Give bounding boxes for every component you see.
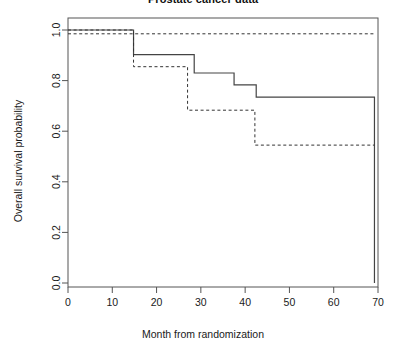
series-solid-curve (68, 30, 374, 283)
x-axis-tick-label: 0 (65, 296, 71, 308)
y-axis: 0.00.20.40.60.81.0 (50, 23, 68, 291)
y-axis-tick-label: 0.8 (50, 73, 62, 88)
x-axis-title: Month from randomization (0, 328, 406, 340)
series-lower-dashed-curve (68, 30, 374, 145)
x-axis: 010203040506070 (65, 287, 384, 308)
survival-plot-figure: Prostate cancer data 010203040506070 0.0… (0, 0, 406, 353)
y-axis-tick-label: 0.6 (50, 124, 62, 139)
y-axis-tick-label: 0.2 (50, 225, 62, 240)
x-axis-tick-label: 20 (151, 296, 163, 308)
y-axis-tick-label: 0.4 (50, 174, 62, 189)
x-axis-tick-label: 10 (106, 296, 118, 308)
y-axis-tick-label: 1.0 (50, 23, 62, 38)
page-title: Prostate cancer data (0, 0, 406, 5)
x-axis-tick-label: 40 (239, 296, 251, 308)
series-layer (68, 30, 376, 283)
y-axis-tick-label: 0.0 (50, 276, 62, 291)
plot-border (68, 18, 378, 287)
kaplan-meier-chart: 010203040506070 0.00.20.40.60.81.0 (0, 0, 406, 353)
plot-box (68, 18, 378, 287)
x-axis-tick-label: 30 (195, 296, 207, 308)
x-axis-tick-label: 50 (284, 296, 296, 308)
y-axis-title: Overall survival probability (12, 51, 24, 271)
x-axis-tick-label: 70 (372, 296, 384, 308)
x-axis-tick-label: 60 (328, 296, 340, 308)
